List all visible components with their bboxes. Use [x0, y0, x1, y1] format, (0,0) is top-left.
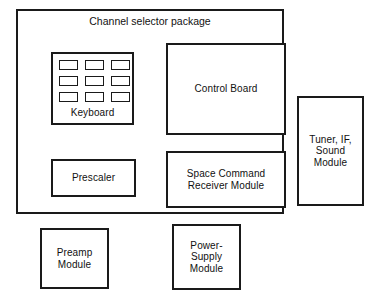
keypad-key [111, 76, 130, 86]
tuner-if-sound-block: Tuner, IF, Sound Module [297, 96, 364, 206]
keypad-key [85, 76, 104, 86]
control-board-label: Control Board [195, 83, 258, 95]
keypad-key [85, 92, 104, 102]
preamp-label: Preamp Module [57, 247, 93, 270]
prescaler-label: Prescaler [72, 172, 115, 184]
block-diagram: Channel selector package Keyboard Contro… [0, 0, 374, 297]
tuner-if-sound-label: Tuner, IF, Sound Module [309, 134, 351, 169]
keypad-key [59, 76, 78, 86]
keyboard-module-label: Keyboard [53, 107, 132, 119]
keypad-key [111, 60, 130, 70]
power-supply-block: Power- Supply Module [172, 224, 241, 290]
keyboard-module: Keyboard [51, 52, 134, 125]
space-command-receiver-block: Space Command Receiver Module [166, 151, 286, 208]
space-command-receiver-label: Space Command Receiver Module [187, 168, 266, 191]
control-board-block: Control Board [166, 43, 286, 135]
keypad-key [59, 92, 78, 102]
preamp-block: Preamp Module [40, 228, 109, 289]
keypad-key [111, 92, 130, 102]
keypad-key [85, 60, 104, 70]
keypad-grid [59, 60, 130, 102]
channel-selector-package-enclosure: Channel selector package Keyboard Contro… [16, 9, 284, 214]
power-supply-label: Power- Supply Module [190, 240, 223, 275]
prescaler-block: Prescaler [51, 159, 136, 197]
package-title: Channel selector package [18, 15, 282, 27]
keypad-key [59, 60, 78, 70]
